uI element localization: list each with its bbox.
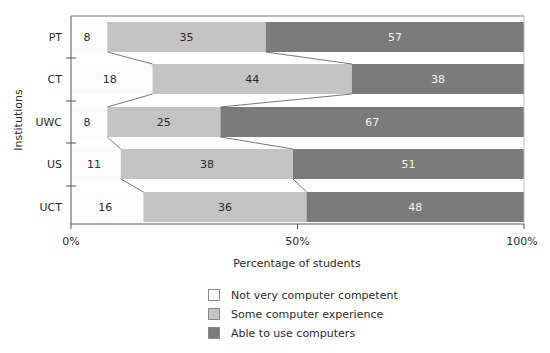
bar-value-label: 36 (218, 201, 232, 214)
connector-line (220, 94, 351, 107)
bar-value-label: 25 (157, 116, 171, 129)
x-axis-ticks: 0%50%100% (62, 224, 537, 248)
y-axis-ticks: PTCTUWCUSUCT (35, 31, 76, 214)
legend-label: Not very computer competent (231, 289, 398, 302)
connector-line (220, 137, 292, 149)
connector-line (107, 52, 152, 64)
x-axis-title: Percentage of students (233, 257, 361, 270)
bar-value-label: 8 (84, 116, 91, 129)
legend-label: Some computer experience (231, 308, 383, 321)
bar-value-label: 8 (84, 31, 91, 44)
connector-line (107, 137, 121, 149)
x-tick-label: 0% (62, 235, 79, 248)
legend-item-not-competent: Not very computer competent (208, 286, 398, 304)
y-tick-label: CT (48, 73, 63, 86)
bar-value-label: 35 (180, 31, 194, 44)
bar-value-label: 38 (431, 73, 445, 86)
legend-label: Able to use computers (231, 327, 355, 340)
bar-value-label: 51 (401, 158, 415, 171)
bar-value-label: 48 (408, 201, 422, 214)
bar-value-label: 16 (98, 201, 112, 214)
legend-swatch-white (208, 289, 220, 301)
bar-value-label: 44 (245, 73, 259, 86)
bar-value-label: 38 (200, 158, 214, 171)
legend-swatch-light-gray (208, 308, 220, 320)
x-tick-label: 50% (285, 235, 309, 248)
connector-line (266, 52, 352, 64)
y-tick-label: UWC (35, 116, 62, 129)
y-tick-label: UCT (40, 201, 63, 214)
connector-line (293, 179, 307, 192)
legend-item-some-experience: Some computer experience (208, 305, 398, 323)
legend-item-able: Able to use computers (208, 324, 398, 342)
x-tick-label: 100% (506, 235, 537, 248)
y-axis-title: Institutions (12, 89, 25, 151)
legend: Not very computer competent Some compute… (208, 286, 398, 343)
plot-area: 8355718443882567113851163648 (71, 22, 524, 222)
connector-line (107, 94, 152, 107)
bar-value-label: 18 (103, 73, 117, 86)
legend-swatch-dark-gray (208, 327, 220, 339)
connector-line (121, 179, 144, 192)
bar-value-label: 57 (388, 31, 402, 44)
y-tick-label: US (47, 158, 62, 171)
bar-value-label: 67 (365, 116, 379, 129)
bar-value-label: 11 (87, 158, 101, 171)
y-tick-label: PT (49, 31, 63, 44)
